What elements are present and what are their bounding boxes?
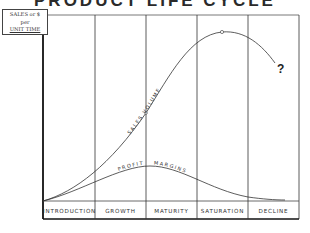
stage-introduction: INTRODUCTION [43,205,95,217]
peak-marker [220,30,223,33]
stage-saturation: SATURATION [197,205,248,217]
stage-decline: DECLINE [248,205,299,217]
sales-volume-curve [43,32,275,201]
y-axis-label-line3: UNIT TIME [3,26,47,34]
stage-growth: GROWTH [95,205,146,217]
sales-volume-label: SALES VOLUME [126,86,162,135]
y-axis-label-line1: SALES or $ [3,11,47,19]
question-mark: ? [277,62,284,76]
y-axis-label-line2: per [3,19,47,27]
profit-label: PROFIT [117,160,144,172]
y-axis-label-box: SALES or $ per UNIT TIME [2,9,48,35]
stage-maturity: MATURITY [146,205,197,217]
